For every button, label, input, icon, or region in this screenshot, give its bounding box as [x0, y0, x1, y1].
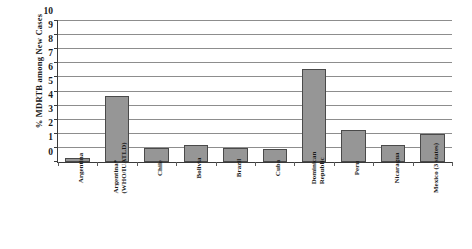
x-axis-tick-label-line: Dominican [310, 152, 318, 185]
x-tick-mark [452, 162, 453, 166]
x-axis-tick-label-line: Chile [156, 160, 164, 176]
x-axis-tick-label: Peru [353, 161, 361, 175]
x-label-slot: Nicaragua [373, 168, 413, 248]
y-tick-label: 3 [48, 105, 53, 115]
x-axis-tick-label-line: Peru [353, 161, 361, 175]
x-axis-tick-label: Mexico (3 states) [432, 143, 440, 193]
x-axis-tick-label-line: Bolivia [195, 157, 203, 178]
x-tick-mark [413, 162, 414, 166]
x-tick-mark [216, 162, 217, 166]
x-label-slot: Brazil [215, 168, 255, 248]
x-axis-tick-label-line: Republic [318, 152, 326, 185]
x-axis-tick-label: Argentina*(WHO/IUATLD) [112, 142, 128, 193]
x-axis-tick-label: DominicanRepublic [310, 152, 326, 185]
y-tick-label: 5 [48, 77, 53, 87]
x-axis-tick-label-line: Argentina [77, 153, 85, 183]
bar-slot [97, 21, 136, 162]
x-tick-mark [373, 162, 374, 166]
x-tick-mark [97, 162, 98, 166]
x-tick-mark [334, 162, 335, 166]
x-label-slot: Argentina [57, 168, 97, 248]
x-axis-tick-label: Argentina [77, 153, 85, 183]
x-label-slot: Bolivia [176, 168, 216, 248]
x-axis-tick-label-line: Nicaragua [393, 152, 401, 183]
bar-slot [294, 21, 333, 162]
y-tick-label: 6 [48, 63, 53, 73]
x-axis-tick-label: Nicaragua [393, 152, 401, 183]
x-label-slot: Peru [334, 168, 374, 248]
x-label-slot: DominicanRepublic [294, 168, 334, 248]
bar-slot [373, 21, 412, 162]
x-tick-mark [255, 162, 256, 166]
x-axis-tick-label: Brazil [235, 159, 243, 177]
x-tick-mark [137, 162, 138, 166]
bar [302, 69, 326, 162]
x-axis-tick-label: Bolivia [195, 157, 203, 178]
x-axis-tick-label-line: Mexico (3 states) [432, 143, 440, 193]
bar-slot [137, 21, 176, 162]
y-axis-title: % MDRTB among New Cases [34, 0, 44, 146]
bar-slot [413, 21, 452, 162]
bar-slot [334, 21, 373, 162]
bar-slot [255, 21, 294, 162]
y-tick-label: 10 [44, 7, 54, 17]
x-axis-tick-label-line: (WHO/IUATLD) [120, 142, 128, 193]
y-tick-label: 4 [48, 91, 53, 101]
bars-layer [58, 21, 452, 162]
bar [341, 130, 365, 162]
x-tick-mark [294, 162, 295, 166]
bar-slot [216, 21, 255, 162]
y-tick-label: 9 [48, 21, 53, 31]
x-tick-mark [176, 162, 177, 166]
x-label-slot: Chile [136, 168, 176, 248]
x-axis-labels: ArgentinaArgentina*(WHO/IUATLD)ChileBoli… [57, 168, 452, 248]
y-tick-label: 7 [48, 49, 53, 59]
x-axis-tick-label-line: Argentina* [112, 142, 120, 193]
x-axis-tick-label-line: Cuba [274, 160, 282, 176]
x-axis-tick-label: Cuba [274, 160, 282, 176]
y-tick-label: 0 [48, 148, 53, 158]
x-label-slot: Cuba [255, 168, 295, 248]
y-tick-label: 1 [48, 134, 53, 144]
bar-chart: % MDRTB among New Cases 012345678910 Arg… [0, 0, 472, 249]
x-tick-mark [58, 162, 59, 166]
x-label-slot: Mexico (3 states) [413, 168, 453, 248]
x-label-slot: Argentina*(WHO/IUATLD) [97, 168, 137, 248]
y-tick-label: 2 [48, 120, 53, 130]
bar-slot [176, 21, 215, 162]
bar-slot [58, 21, 97, 162]
x-axis-tick-label-line: Brazil [235, 159, 243, 177]
y-tick-label: 8 [48, 35, 53, 45]
x-axis-tick-label: Chile [156, 160, 164, 176]
